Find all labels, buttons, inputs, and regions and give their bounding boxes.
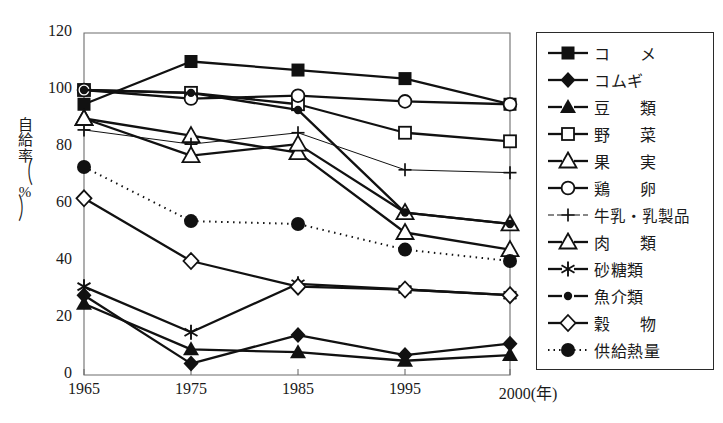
data-point	[290, 136, 307, 151]
x-tick-label: 2000(年)	[468, 380, 588, 404]
data-point	[504, 166, 517, 179]
data-point	[292, 89, 305, 102]
legend-marker-filled-square-icon	[546, 43, 590, 63]
legend-label: コ メ	[594, 41, 663, 65]
data-point	[77, 190, 92, 206]
legend-item-5: 鶏 卵	[537, 174, 713, 201]
legend-label: 豆 類	[594, 95, 663, 119]
data-point	[397, 224, 414, 239]
legend-label: 砂糖類	[594, 257, 644, 281]
y-axis-label-paren-open: （	[18, 160, 33, 189]
legend-marker-open-diamond-icon	[546, 313, 590, 333]
data-point	[77, 160, 91, 174]
data-point	[185, 325, 198, 340]
data-point	[503, 287, 518, 303]
data-point	[184, 214, 198, 228]
data-point	[399, 163, 412, 176]
y-tick-label: 100	[28, 79, 72, 97]
legend-marker-filled-diamond-icon	[546, 70, 590, 90]
x-tick-label: 1995	[345, 380, 465, 398]
legend-label: 果 実	[594, 149, 663, 173]
data-point	[561, 315, 576, 331]
legend-item-7: 肉 類	[537, 228, 713, 255]
legend-item-4: 果 実	[537, 147, 713, 174]
data-point	[399, 95, 412, 108]
data-point	[560, 152, 577, 167]
data-point	[399, 72, 412, 85]
legend-marker-filled-triangle-icon	[546, 97, 590, 117]
legend-label: 牛乳・乳製品	[594, 204, 690, 226]
legend-item-9: 魚介類	[537, 282, 713, 309]
legend-marker-open-circle-icon	[546, 178, 590, 198]
data-point	[560, 99, 576, 113]
data-point	[562, 128, 574, 140]
y-tick-label: 20	[28, 307, 72, 325]
legend-label: 穀 物	[594, 311, 663, 335]
legend-marker-plus-icon	[546, 205, 590, 225]
legend-label: 魚介類	[594, 284, 644, 308]
legend-label: 野 菜	[594, 122, 663, 146]
data-point	[399, 127, 411, 139]
legend-marker-big-filled-circle-icon	[546, 340, 590, 360]
data-point	[560, 233, 577, 248]
data-point	[398, 282, 413, 298]
data-point	[506, 220, 514, 228]
legend-label: 肉 類	[594, 230, 663, 254]
data-point	[294, 106, 302, 114]
legend-item-0: コ メ	[537, 39, 713, 66]
series-11	[77, 160, 517, 268]
data-point	[398, 243, 412, 257]
series-line	[84, 167, 510, 261]
data-point	[292, 64, 305, 77]
data-point	[562, 46, 575, 59]
data-point	[401, 208, 409, 216]
legend-item-11: 供給熱量	[537, 336, 713, 363]
data-point	[562, 208, 575, 221]
plot-area: 自 給 率 （ % ） 0204060801001201965197519851…	[0, 0, 530, 423]
axis-frame	[84, 33, 510, 375]
legend-marker-open-triangle-icon	[546, 232, 590, 252]
data-point	[80, 86, 88, 94]
data-point	[185, 55, 198, 68]
legend-marker-open-square-icon	[546, 124, 590, 144]
legend-marker-small-filled-circle-icon	[546, 286, 590, 306]
legend-marker-open-triangle-icon	[546, 151, 590, 171]
data-point	[562, 181, 575, 194]
data-point	[562, 261, 575, 276]
data-point	[504, 135, 516, 147]
chart-legend: コ メコムギ豆 類野 菜果 実鶏 卵牛乳・乳製品肉 類砂糖類魚介類穀 物供給熱量	[536, 32, 714, 370]
data-point	[503, 254, 517, 268]
legend-label: 鶏 卵	[594, 176, 663, 200]
y-tick-label: 120	[28, 22, 72, 40]
y-axis-label-char-1: 自	[18, 118, 33, 133]
data-point	[504, 98, 517, 111]
data-point	[78, 279, 91, 294]
legend-label: コムギ	[594, 68, 644, 92]
legend-item-10: 穀 物	[537, 309, 713, 336]
legend-item-3: 野 菜	[537, 120, 713, 147]
data-point	[291, 327, 306, 343]
data-point	[76, 110, 93, 125]
x-tick-label: 1975	[131, 380, 251, 398]
legend-item-2: 豆 類	[537, 93, 713, 120]
data-point	[184, 356, 199, 372]
chart-canvas	[0, 0, 530, 423]
data-point	[502, 347, 518, 361]
x-tick-label: 1965	[24, 380, 144, 398]
data-point	[564, 291, 572, 299]
legend-item-6: 牛乳・乳製品	[537, 201, 713, 228]
data-point	[184, 253, 199, 269]
legend-marker-asterisk-icon	[546, 259, 590, 279]
y-tick-label: 80	[28, 136, 72, 154]
legend-item-1: コムギ	[537, 66, 713, 93]
data-point	[187, 89, 195, 97]
x-tick-label: 1985	[238, 380, 358, 398]
y-tick-label: 40	[28, 250, 72, 268]
chart-figure: { "chart_data": { "type": "line", "title…	[0, 0, 723, 423]
y-tick-label: 60	[28, 193, 72, 211]
legend-label: 供給熱量	[594, 338, 660, 362]
legend-item-8: 砂糖類	[537, 255, 713, 282]
data-point	[291, 217, 305, 231]
data-point	[561, 343, 575, 357]
series-10	[77, 190, 518, 303]
